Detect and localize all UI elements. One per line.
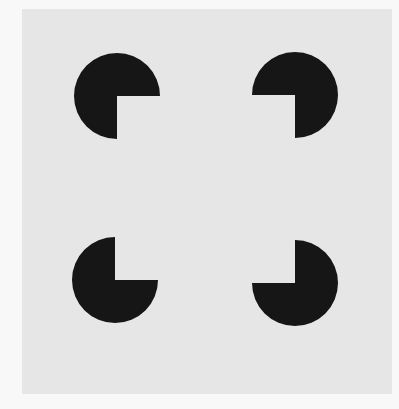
kanizsa-figure: [0, 0, 399, 409]
gray-panel: [22, 9, 392, 394]
